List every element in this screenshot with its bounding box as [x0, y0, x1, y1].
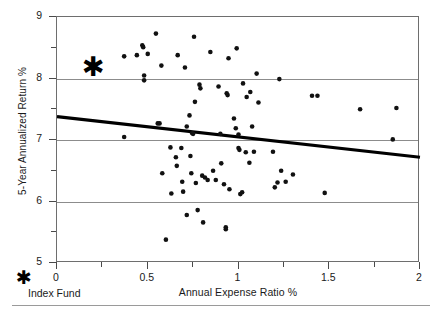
data-point: [247, 160, 252, 165]
y-tick-8: [49, 78, 56, 79]
data-point: [183, 65, 188, 70]
data-point: [225, 93, 230, 98]
data-point: [192, 34, 197, 39]
data-point: [174, 164, 179, 169]
data-point: [218, 132, 223, 137]
x-minor-tick-1.75: [374, 262, 375, 267]
data-point: [141, 45, 146, 50]
data-point: [205, 178, 210, 183]
data-point: [322, 191, 327, 196]
data-point: [219, 161, 224, 166]
data-point: [233, 126, 238, 131]
scatter-chart-figure: 5-Year Annualized Return % 56789 ✱ 00.51…: [0, 0, 442, 321]
data-point: [256, 100, 261, 105]
data-point: [194, 181, 199, 186]
data-point: [179, 146, 184, 151]
data-point: [248, 90, 253, 95]
data-point: [180, 180, 185, 185]
data-point: [211, 168, 216, 173]
data-point: [240, 190, 245, 195]
data-point: [232, 116, 237, 121]
data-point: [390, 137, 395, 142]
data-point: [189, 171, 194, 176]
data-point: [184, 213, 189, 218]
x-axis-title: Annual Expense Ratio %: [56, 286, 420, 298]
data-point: [142, 78, 147, 83]
data-point: [271, 149, 276, 154]
y-tick-label-7: 7: [0, 132, 42, 144]
data-point: [216, 84, 221, 89]
data-point: [252, 149, 257, 154]
data-point: [310, 93, 315, 98]
data-point: [273, 185, 278, 190]
data-point: [169, 191, 174, 196]
data-point: [279, 168, 284, 173]
data-point: [208, 50, 213, 55]
data-point: [154, 31, 159, 36]
data-point: [184, 124, 189, 129]
y-tick-label-6: 6: [0, 194, 42, 206]
x-minor-tick-0.25: [101, 262, 102, 267]
data-point: [160, 171, 165, 176]
data-point: [243, 150, 248, 155]
data-point: [244, 95, 249, 100]
y-tick-label-9: 9: [0, 9, 42, 21]
x-tick-label-1: 1: [218, 271, 258, 283]
data-point: [254, 71, 259, 76]
data-point: [142, 73, 147, 78]
y-axis-title: 5-Year Annualized Return %: [14, 0, 32, 262]
data-point: [187, 113, 192, 118]
x-tick-label-0.5: 0.5: [127, 271, 167, 283]
data-point: [275, 180, 280, 185]
data-point: [222, 182, 227, 187]
data-point: [241, 81, 246, 86]
data-point: [157, 121, 162, 126]
data-point: [195, 208, 200, 213]
y-tick-5: [49, 262, 56, 263]
x-tick-label-0: 0: [36, 271, 76, 283]
data-point: [315, 93, 320, 98]
data-point: [236, 132, 241, 137]
data-points: [122, 31, 399, 242]
data-point: [122, 135, 127, 140]
x-tick-0.5: [147, 262, 148, 269]
data-point: [223, 227, 228, 232]
data-point: [145, 52, 150, 57]
x-minor-tick-0.75: [192, 262, 193, 267]
index-fund-star: ✱: [82, 51, 105, 82]
x-tick-0: [56, 262, 57, 269]
data-point: [168, 145, 173, 150]
data-point: [193, 100, 198, 105]
data-point: [358, 107, 363, 112]
data-point: [175, 53, 180, 58]
data-point: [188, 154, 193, 159]
data-point: [283, 180, 288, 185]
y-tick-label-8: 8: [0, 71, 42, 83]
x-tick-1.5: [328, 262, 329, 269]
x-tick-label-1.5: 1.5: [308, 271, 348, 283]
x-tick-label-2: 2: [399, 271, 439, 283]
legend-label-index-fund: Index Fund: [28, 287, 81, 299]
data-point: [191, 132, 196, 137]
x-minor-tick-1.25: [283, 262, 284, 267]
y-tick-9: [49, 16, 56, 17]
data-point: [237, 148, 242, 153]
y-tick-6: [49, 201, 56, 202]
data-point: [291, 172, 296, 177]
data-point: [227, 187, 232, 192]
data-point: [198, 86, 203, 91]
data-point: [135, 53, 140, 58]
data-point: [394, 106, 399, 111]
bottom-divider: [12, 305, 430, 306]
data-point: [181, 189, 186, 194]
index-fund-marker: ✱: [82, 51, 105, 82]
data-point: [201, 220, 206, 225]
x-tick-1: [238, 262, 239, 269]
data-point: [226, 56, 231, 61]
data-point: [122, 54, 127, 59]
plot-svg: ✱: [57, 17, 420, 263]
x-tick-2: [419, 262, 420, 269]
data-point: [174, 155, 179, 160]
plot-area: ✱: [56, 16, 419, 262]
data-point: [250, 124, 255, 129]
